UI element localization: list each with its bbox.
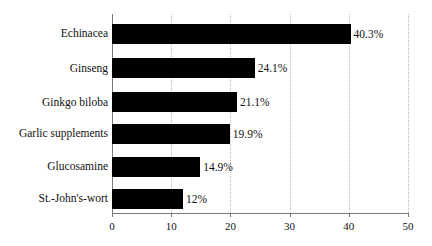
bar-value-ginseng: 24.1% [255, 62, 288, 75]
bar-chart: 0 10 20 30 40 50 Echinacea Ginseng Ginkg… [0, 0, 432, 246]
bar-value-ginkgo-biloba: 21.1% [237, 96, 270, 109]
gridline-50 [408, 14, 409, 213]
bar-row: 21.1% [112, 92, 408, 112]
category-label-ginkgo-biloba: Ginkgo biloba [42, 96, 108, 109]
x-tick-40 [349, 213, 350, 217]
bar-ginkgo-biloba [112, 92, 237, 112]
bar-value-garlic-supplements: 19.9% [230, 128, 263, 141]
x-tick-0 [112, 213, 113, 217]
category-label-echinacea: Echinacea [61, 27, 108, 40]
x-tick-20 [230, 213, 231, 217]
bar-row: 19.9% [112, 124, 408, 144]
bar-echinacea [112, 24, 351, 44]
x-tick-30 [290, 213, 291, 217]
bar-value-glucosamine: 14.9% [200, 161, 233, 174]
category-label-st-johns-wort: St.-John's-wort [39, 192, 108, 205]
bar-glucosamine [112, 157, 200, 177]
bar-value-st-johns-wort: 12% [183, 193, 207, 206]
bar-row: 12% [112, 189, 408, 209]
x-axis-line [112, 213, 409, 214]
bar-row: 14.9% [112, 157, 408, 177]
x-tick-label-0: 0 [109, 220, 115, 232]
bar-value-echinacea: 40.3% [351, 28, 384, 41]
x-tick-label-40: 40 [343, 220, 354, 232]
bar-row: 40.3% [112, 24, 408, 44]
bar-st-johns-wort [112, 189, 183, 209]
x-tick-label-20: 20 [225, 220, 236, 232]
category-label-garlic-supplements: Garlic supplements [19, 127, 108, 140]
x-tick-label-30: 30 [284, 220, 295, 232]
bar-row: 24.1% [112, 58, 408, 78]
category-label-glucosamine: Glucosamine [47, 160, 108, 173]
x-tick-10 [171, 213, 172, 217]
bar-ginseng [112, 58, 255, 78]
x-tick-label-10: 10 [166, 220, 177, 232]
x-tick-50 [408, 213, 409, 217]
x-tick-label-50: 50 [403, 220, 414, 232]
category-label-ginseng: Ginseng [70, 62, 108, 75]
bar-garlic-supplements [112, 124, 230, 144]
